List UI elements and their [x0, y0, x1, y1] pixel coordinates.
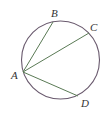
label-b: B — [51, 7, 58, 19]
label-d: D — [80, 97, 89, 109]
label-a: A — [10, 69, 18, 81]
chord-ad — [23, 72, 78, 96]
circle-diagram: A B C D — [0, 0, 106, 113]
chord-ac — [23, 33, 89, 72]
chord-ab — [23, 22, 53, 72]
label-c: C — [90, 21, 98, 33]
circle — [22, 21, 100, 99]
